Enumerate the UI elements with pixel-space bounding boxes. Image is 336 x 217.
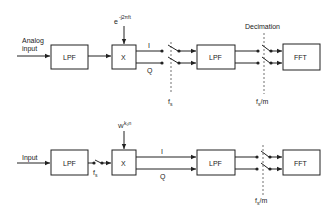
i-label-bottom: I: [161, 148, 163, 155]
signal-processing-diagram: Analog input LPF X e -j2πft I Q fs LPF: [0, 0, 336, 217]
lpf-label: LPF: [63, 54, 76, 61]
twiddle-exponent: k₀n: [124, 120, 132, 126]
analog-input-label-2: input: [22, 45, 37, 53]
fft-label: FFT: [294, 54, 308, 61]
oscillator-exponent: -j2πft: [119, 14, 131, 20]
lpf-label-2: LPF: [209, 54, 222, 61]
analog-input-label: Analog: [22, 37, 44, 45]
fs-over-m-label: fs/m: [256, 98, 268, 107]
lpf-label-4: LPF: [209, 160, 222, 167]
mixer-label-bottom: X: [121, 160, 126, 167]
oscillator-base: e: [114, 18, 118, 25]
q-label: Q: [147, 67, 153, 75]
mixer-label: X: [121, 54, 126, 61]
i-label: I: [148, 42, 150, 49]
fs-label: fs: [168, 98, 173, 107]
fs-over-m-label-bottom: fs/m: [255, 197, 267, 206]
fft-label-bottom: FFT: [294, 160, 308, 167]
q-label-bottom: Q: [160, 173, 166, 181]
input-label: Input: [22, 154, 38, 162]
top-chain: Analog input LPF X e -j2πft I Q fs LPF: [17, 14, 320, 107]
lpf-label-3: LPF: [63, 160, 76, 167]
fs-label-bottom: fs: [93, 169, 98, 178]
bottom-chain: Input LPF fs X W k₀n I Q LPF fs/m: [17, 120, 320, 206]
decimation-label: Decimation: [245, 23, 280, 30]
